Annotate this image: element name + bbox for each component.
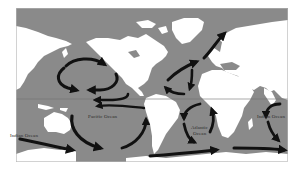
map-graphic [16, 8, 288, 162]
label-indian-ocean-west: Indian Ocean [10, 133, 38, 138]
ocean-currents-map: Pacific Ocean Indian Ocean Atlantic Ocea… [16, 8, 288, 162]
label-indian-ocean-east: Indian Ocean [257, 114, 285, 119]
label-pacific-ocean: Pacific Ocean [88, 114, 117, 119]
label-atlantic-ocean-line2: Ocean [193, 131, 206, 136]
label-atlantic-ocean-line1: Atlantic [191, 125, 208, 130]
